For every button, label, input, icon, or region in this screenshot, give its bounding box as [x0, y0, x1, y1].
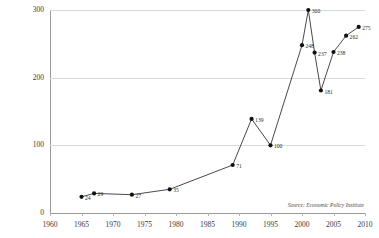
series-line: [82, 10, 359, 197]
data-point-1965: [79, 195, 83, 199]
data-point-label-2001: 300: [312, 8, 320, 14]
data-point-2000: [300, 43, 304, 47]
data-point-label-1965: 24: [85, 195, 91, 201]
data-point-2005: [331, 50, 335, 54]
data-point-2007: [344, 34, 348, 38]
data-point-1989: [231, 163, 235, 167]
data-point-1973: [130, 193, 134, 197]
data-point-1979: [168, 187, 172, 191]
data-point-label-2000: 248: [306, 43, 314, 49]
data-point-label-2002: 237: [318, 51, 326, 57]
data-point-label-2007: 262: [350, 34, 358, 40]
data-point-label-1979: 35: [173, 187, 179, 193]
chart-container: 0100200300 19601965197019751980198519901…: [0, 0, 379, 238]
data-point-1967: [92, 191, 96, 195]
source-note: Source: Economic Policy Institute: [288, 202, 364, 208]
data-point-2003: [319, 88, 323, 92]
data-point-1995: [268, 143, 272, 147]
data-point-label-1967: 29: [98, 191, 104, 197]
data-point-label-1989: 71: [236, 163, 242, 169]
data-point-label-2009: 275: [362, 25, 370, 31]
data-point-1992: [250, 117, 254, 121]
data-point-2009: [357, 25, 361, 29]
data-point-label-1973: 27: [135, 193, 141, 199]
data-point-label-2003: 181: [324, 89, 332, 95]
data-point-2001: [306, 8, 310, 12]
data-point-label-1995: 100: [274, 143, 282, 149]
data-point-2002: [313, 51, 317, 55]
data-point-label-2005: 238: [337, 50, 345, 56]
data-point-label-1992: 139: [255, 117, 263, 123]
